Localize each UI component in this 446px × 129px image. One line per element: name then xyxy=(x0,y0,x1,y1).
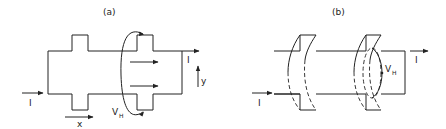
left-flange-edges xyxy=(300,35,316,110)
right-flange-front-arc-top xyxy=(354,35,366,72)
right-flange-edges xyxy=(366,35,381,110)
left-flange-front-arc-top xyxy=(288,35,300,72)
current-out-label: I xyxy=(187,55,190,65)
panel-b: (b) V H I I xyxy=(252,7,428,110)
left-flange-back-arc-bottom xyxy=(304,60,316,110)
left-flange-back-arc-top xyxy=(305,35,316,60)
hall-voltage-subscript: H xyxy=(119,112,124,119)
voltage-probe-point xyxy=(381,72,384,75)
y-axis-label: y xyxy=(201,76,207,86)
panel-a-label: (a) xyxy=(103,7,116,17)
right-flange-back-arc-bottom xyxy=(369,60,381,110)
hall-voltage-subscript-b: H xyxy=(392,69,397,76)
voltage-probe-ellipse-front xyxy=(372,48,382,98)
right-flange-back-arc-top xyxy=(370,35,381,60)
hall-voltage-label-b: V xyxy=(385,64,392,74)
current-out-label-b: I xyxy=(415,55,418,65)
hall-voltage-label: V xyxy=(112,107,119,117)
x-axis-label: x xyxy=(77,119,83,129)
right-flange-front-arc-bottom xyxy=(354,72,366,110)
panel-b-label: (b) xyxy=(332,7,345,17)
panel-a: (a) V H I I y x xyxy=(22,7,207,129)
hall-bar-outline xyxy=(48,35,182,110)
current-in-label: I xyxy=(29,98,32,108)
voltage-probe-loop xyxy=(121,32,143,115)
left-flange-front-arc-bottom xyxy=(288,72,300,110)
hall-bar-diagram: (a) V H I I y x (b) xyxy=(0,0,446,129)
current-in-label-b: I xyxy=(258,98,261,108)
